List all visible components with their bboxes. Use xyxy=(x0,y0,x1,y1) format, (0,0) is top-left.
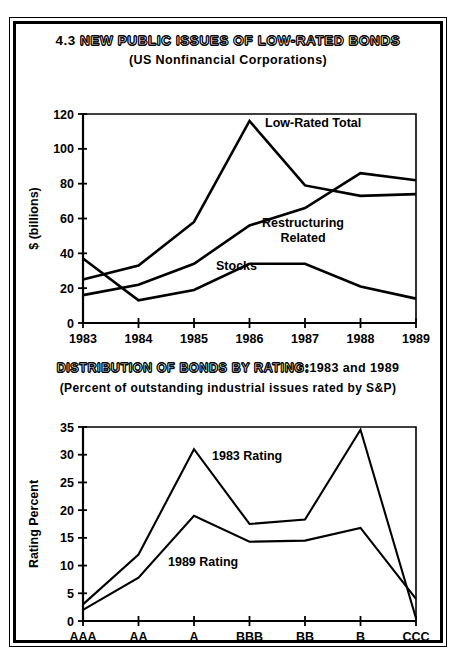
lower-chart-svg: 05101520253035 AAAAAABBBBBBCCC 1983 Rati… xyxy=(16,399,440,640)
y-axis-title: Rating Percent xyxy=(27,479,41,568)
x-tick-label: 1983 xyxy=(69,332,97,346)
series-line-low-rated-total xyxy=(83,121,416,279)
lower-chart-title-years: 1983 and 1989 xyxy=(309,361,399,375)
y-tick-label: 10 xyxy=(60,559,74,573)
x-tick-label: BB xyxy=(296,630,314,640)
x-tick-label: 1989 xyxy=(402,332,430,346)
upper-chart-subtitle: (US Nonfinancial Corporations) xyxy=(16,53,440,67)
y-tick-label: 5 xyxy=(67,587,74,601)
lower-x-axis-ticks: AAAAAABBBBBBCCC xyxy=(69,616,429,640)
upper-series-lines xyxy=(83,121,416,300)
series-line-restructuring-related xyxy=(83,173,416,295)
x-tick-label: BBB xyxy=(236,630,263,640)
x-tick-label: 1987 xyxy=(291,332,319,346)
lower-chart: 05101520253035 AAAAAABBBBBBCCC 1983 Rati… xyxy=(16,399,440,640)
y-tick-label: 35 xyxy=(60,421,74,435)
y-tick-label: 120 xyxy=(53,108,74,122)
figure-inner-frame: 4.3 NEW PUBLIC ISSUES OF LOW-RATED BONDS… xyxy=(13,21,443,643)
x-tick-label: 1988 xyxy=(347,332,375,346)
figure-outer-frame: 4.3 NEW PUBLIC ISSUES OF LOW-RATED BONDS… xyxy=(9,17,447,647)
series-annotation-low-rated-total: Low-Rated Total xyxy=(265,116,361,130)
y-tick-label: 15 xyxy=(60,531,74,545)
y-tick-label: 20 xyxy=(60,282,74,296)
lower-chart-title-text: DISTRIBUTION OF BONDS BY RATING: xyxy=(57,361,310,375)
x-tick-label: 1986 xyxy=(236,332,264,346)
x-tick-label: 1985 xyxy=(180,332,208,346)
y-tick-label: 80 xyxy=(60,177,74,191)
figure-body: 4.3 NEW PUBLIC ISSUES OF LOW-RATED BONDS… xyxy=(16,24,440,640)
figure-number: 4.3 xyxy=(56,33,76,48)
upper-chart: 020406080100120 198319841985198619871988… xyxy=(16,74,440,349)
lower-y-axis-label: Rating Percent xyxy=(27,479,41,568)
series-line-1989-rating xyxy=(83,516,416,610)
y-axis-title: $ (billions) xyxy=(27,187,41,250)
y-tick-label: 25 xyxy=(60,476,74,490)
y-tick-label: 20 xyxy=(60,504,74,518)
y-tick-label: 0 xyxy=(67,615,74,629)
series-annotation-restructuring-related: Restructuring xyxy=(262,216,344,230)
x-tick-label: A xyxy=(189,630,198,640)
x-tick-label: CCC xyxy=(402,630,429,640)
y-tick-label: 30 xyxy=(60,448,74,462)
series-annotation-restructuring-related: Related xyxy=(280,231,325,245)
y-tick-label: 100 xyxy=(53,142,74,156)
series-annotation-1989-rating: 1989 Rating xyxy=(168,555,238,569)
x-tick-label: AAA xyxy=(69,630,96,640)
upper-y-axis-label: $ (billions) xyxy=(27,187,41,250)
x-tick-label: 1984 xyxy=(125,332,153,346)
y-tick-label: 0 xyxy=(67,317,74,331)
y-tick-label: 40 xyxy=(60,247,74,261)
x-tick-label: B xyxy=(356,630,365,640)
x-tick-label: AA xyxy=(129,630,147,640)
y-tick-label: 60 xyxy=(60,212,74,226)
plot-box xyxy=(83,114,416,323)
upper-chart-svg: 020406080100120 198319841985198619871988… xyxy=(16,74,440,349)
upper-series-annotations: Low-Rated TotalRestructuringRelatedStock… xyxy=(216,116,361,273)
upper-chart-title-text: NEW PUBLIC ISSUES OF LOW-RATED BONDS xyxy=(80,33,400,48)
upper-chart-title: 4.3 NEW PUBLIC ISSUES OF LOW-RATED BONDS xyxy=(16,33,440,48)
upper-plot-frame xyxy=(83,114,416,323)
lower-chart-subtitle: (Percent of outstanding industrial issue… xyxy=(16,381,440,395)
series-annotation-1983-rating: 1983 Rating xyxy=(212,449,282,463)
series-annotation-stocks: Stocks xyxy=(216,259,257,273)
lower-chart-title: DISTRIBUTION OF BONDS BY RATING:1983 and… xyxy=(16,361,440,375)
